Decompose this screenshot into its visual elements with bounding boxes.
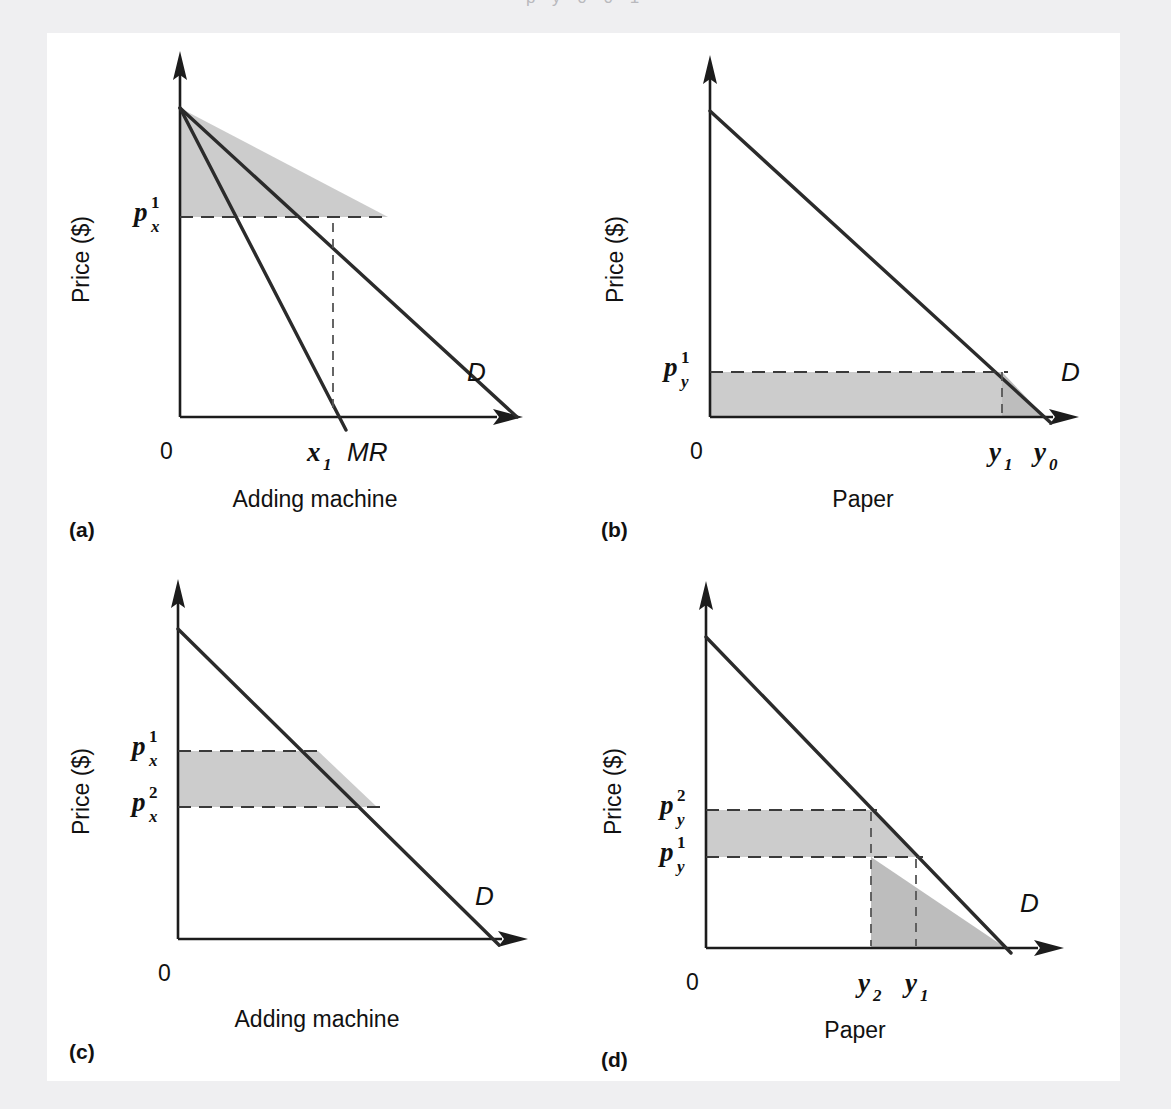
panel-b-quantity-marker-y0: y 0 [1031, 437, 1058, 474]
panel-c-x-axis-label: Adding machine [235, 1006, 400, 1032]
panel-a-demand-label: D [467, 357, 486, 387]
panel-b-quantity-marker-y1: y 1 [986, 437, 1013, 474]
panel-b-price-sub: y [679, 372, 689, 391]
panel-b-price-sup: 1 [681, 348, 690, 367]
panel-a-chart: Price ($) p 1 x 0 x 1 MR D [47, 33, 583, 557]
panel-b-chart: Price ($) p 1 y 0 y 1 y 0 [583, 33, 1120, 557]
panel-d-price1-base: p [658, 837, 674, 867]
panel-d-y2-base: y [855, 968, 871, 998]
panel-d-y2-sub: 2 [872, 986, 882, 1005]
panel-b-price-marker: p 1 y [662, 348, 690, 391]
panel-d-price-marker-1: p 1 y [658, 833, 686, 876]
panel-c-x-axis [178, 931, 528, 947]
panel-a-origin-label: 0 [160, 438, 173, 464]
panel-c: Price ($) p 1 x p 2 x 0 D Addin [47, 557, 583, 1081]
panel-a-quantity-marker-x1: x 1 [306, 437, 332, 474]
scan-top-text-fragment: p y 0 0 1 [0, 0, 1171, 10]
panel-c-price2-sup: 2 [149, 783, 158, 802]
panel-c-price2-sub: x [148, 807, 158, 826]
panel-a-x1-sub: 1 [323, 455, 332, 474]
panel-b-demand-label: D [1061, 357, 1080, 387]
panel-a-price-sub: x [150, 217, 160, 236]
panel-b-y0-base: y [1031, 437, 1047, 467]
panel-d-quantity-marker-y2: y 2 [855, 968, 882, 1005]
panel-d-shaded-band [706, 810, 916, 857]
panel-c-y-axis-label: Price ($) [68, 748, 94, 835]
panel-d-y1-base: y [902, 968, 918, 998]
panel-a-y-axis [173, 51, 187, 417]
panel-a: Price ($) p 1 x 0 x 1 MR D [47, 33, 583, 557]
panel-c-price-marker-1: p 1 x [130, 727, 158, 770]
panel-d-id: (d) [601, 1048, 628, 1071]
panel-c-id: (c) [69, 1040, 95, 1063]
panel-b-y1-sub: 1 [1004, 455, 1013, 474]
panel-d-y1-sub: 1 [920, 986, 929, 1005]
panel-b-y1-base: y [986, 437, 1002, 467]
panel-d-origin-label: 0 [686, 969, 699, 995]
panel-d-price1-sup: 1 [677, 833, 686, 852]
panel-d-y-axis-label: Price ($) [600, 748, 626, 835]
panel-d-price2-sub: y [675, 810, 685, 829]
panel-d-price2-sup: 2 [677, 786, 686, 805]
figure-card: Price ($) p 1 x 0 x 1 MR D [47, 33, 1120, 1081]
panel-b-origin-label: 0 [690, 438, 703, 464]
figure-page: p y 0 0 1 [0, 0, 1171, 1109]
panel-d-price2-base: p [658, 790, 674, 820]
panel-c-price1-base: p [130, 731, 146, 761]
panel-a-shaded-region [180, 108, 388, 217]
panel-b-x-axis-label: Paper [832, 486, 894, 512]
panel-b-id: (b) [601, 518, 628, 541]
panel-d-price-marker-2: p 2 y [658, 786, 686, 829]
panel-c-chart: Price ($) p 1 x p 2 x 0 D Addin [47, 557, 583, 1081]
panel-d-demand-curve [706, 637, 1011, 953]
panel-a-price-sup: 1 [151, 193, 160, 212]
panel-a-x-axis-label: Adding machine [233, 486, 398, 512]
panel-c-price2-base: p [130, 787, 146, 817]
panel-a-y-axis-label: Price ($) [68, 216, 94, 303]
panel-b-price-base: p [662, 352, 678, 382]
panel-d-x-axis-label: Paper [824, 1017, 886, 1043]
panel-c-price1-sup: 1 [149, 727, 158, 746]
panel-a-x1-base: x [306, 437, 321, 467]
panel-d-shaded-triangle [871, 857, 1006, 948]
panel-a-price-marker: p 1 x [132, 193, 160, 236]
panel-a-x-axis [180, 409, 523, 425]
panel-b-y0-sub: 0 [1049, 455, 1058, 474]
panel-a-mr-label: MR [347, 437, 387, 467]
panel-c-price-marker-2: p 2 x [130, 783, 158, 826]
panel-a-id: (a) [69, 518, 95, 541]
panel-b-shaded-region [710, 372, 1002, 417]
panel-c-origin-label: 0 [158, 960, 171, 986]
panel-c-shaded-region [178, 751, 377, 807]
panel-d-price1-sub: y [675, 857, 685, 876]
panel-d: Price ($) p 2 y p 1 y 0 y 2 [583, 557, 1120, 1081]
panel-b: Price ($) p 1 y 0 y 1 y 0 [583, 33, 1120, 557]
panel-d-quantity-marker-y1: y 1 [902, 968, 929, 1005]
panel-b-y-axis-label: Price ($) [602, 216, 628, 303]
panel-a-price-base: p [132, 197, 148, 227]
panel-c-price1-sub: x [148, 751, 158, 770]
panel-c-demand-label: D [475, 881, 494, 911]
panel-d-chart: Price ($) p 2 y p 1 y 0 y 2 [583, 557, 1120, 1081]
panel-d-demand-label: D [1020, 888, 1039, 918]
